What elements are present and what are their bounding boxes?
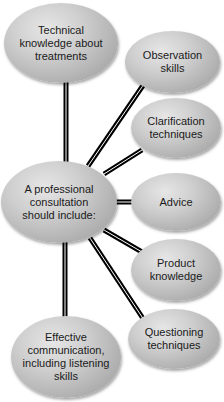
node-central-consultation-label: A professional consultation should inclu… [14,183,104,222]
node-questioning-techniques: Questioning techniques [128,309,220,369]
node-product-knowledge-label: Product knowledge [137,257,215,283]
node-technical-knowledge: Technical knowledge about treatments [4,3,118,83]
node-clarification-techniques-label: Clarification techniques [135,115,217,141]
node-central-consultation: A professional consultation should inclu… [1,161,117,243]
node-advice: Advice [131,173,221,231]
consultation-diagram: Technical knowledge about treatments Obs… [0,0,224,402]
node-observation-skills-label: Observation skills [133,49,213,75]
node-effective-communication: Effective communication, including liste… [11,316,121,398]
node-advice-label: Advice [155,196,196,209]
node-effective-communication-label: Effective communication, including liste… [16,331,116,383]
node-technical-knowledge-label: Technical knowledge about treatments [11,24,111,63]
node-clarification-techniques: Clarification techniques [131,98,221,158]
connector-product [104,230,142,252]
node-questioning-techniques-label: Questioning techniques [131,326,217,352]
connector-clarification [104,150,142,174]
node-product-knowledge: Product knowledge [131,239,221,301]
node-observation-skills: Observation skills [125,31,220,93]
